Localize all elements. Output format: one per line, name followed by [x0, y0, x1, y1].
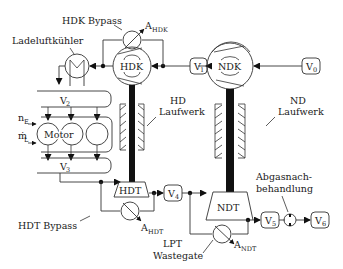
- svg-text:ND: ND: [290, 95, 306, 106]
- svg-text:Wastegate: Wastegate: [153, 250, 203, 261]
- svg-text:V: V: [264, 215, 272, 226]
- exhaust-aftertreatment: [284, 214, 296, 226]
- turbo-diagram: V 0 NDK V 1 HDK HDK Bypass A HDK: [0, 0, 343, 269]
- volume-v5: V 5: [261, 212, 279, 228]
- lpt-wastegate-valve: [213, 225, 234, 244]
- svg-text:HDT: HDT: [148, 228, 164, 236]
- volume-v3: V 3: [37, 158, 111, 174]
- svg-text:1: 1: [200, 66, 204, 74]
- svg-text:A: A: [233, 239, 241, 250]
- svg-text:Ladeluftkühler: Ladeluftkühler: [12, 35, 84, 46]
- svg-text:4: 4: [175, 193, 179, 201]
- ndt-turbine: NDT: [206, 192, 253, 220]
- hdt-bypass-valve: [121, 202, 141, 221]
- hdk-compressor: HDK: [113, 47, 151, 85]
- svg-text:Laufwerk: Laufwerk: [159, 106, 205, 117]
- svg-text:3: 3: [66, 166, 70, 174]
- svg-text:HDK: HDK: [120, 61, 144, 72]
- intercooler: [65, 54, 89, 86]
- svg-text:0: 0: [313, 66, 317, 74]
- svg-text:LPT: LPT: [163, 238, 183, 249]
- svg-text:2: 2: [66, 100, 70, 108]
- svg-text:HDK: HDK: [152, 26, 168, 34]
- svg-text:A: A: [140, 222, 148, 233]
- svg-text:V: V: [305, 61, 313, 72]
- svg-text:A: A: [144, 20, 152, 31]
- nd-shaft: [226, 89, 234, 192]
- svg-text:HD: HD: [170, 95, 186, 106]
- svg-text:Motor: Motor: [44, 129, 74, 140]
- svg-text:V: V: [167, 188, 175, 199]
- svg-text:behandlung: behandlung: [256, 183, 313, 194]
- svg-text:HDT: HDT: [119, 185, 142, 196]
- svg-text:NDT: NDT: [241, 245, 257, 253]
- svg-text:NDK: NDK: [218, 61, 242, 72]
- volume-v0: V 0: [302, 58, 320, 74]
- svg-text:6: 6: [322, 220, 326, 228]
- svg-text:Abgasnach-: Abgasnach-: [255, 171, 312, 182]
- svg-text:HDK Bypass: HDK Bypass: [62, 15, 122, 26]
- volume-v4: V 4: [164, 185, 182, 201]
- hdt-turbine: HDT: [114, 182, 149, 197]
- svg-text:E: E: [24, 118, 29, 126]
- volume-v6: V 6: [311, 212, 329, 228]
- volume-v2: V 2: [37, 91, 111, 108]
- svg-text:V: V: [314, 215, 322, 226]
- svg-text:NDT: NDT: [217, 202, 240, 213]
- hd-shaft: [129, 85, 135, 182]
- ndk-compressor: NDK: [207, 42, 253, 89]
- hdk-bypass-valve: [123, 29, 144, 49]
- svg-text:5: 5: [272, 220, 276, 228]
- svg-text:Laufwerk: Laufwerk: [278, 106, 324, 117]
- svg-text:HDT Bypass: HDT Bypass: [18, 220, 77, 231]
